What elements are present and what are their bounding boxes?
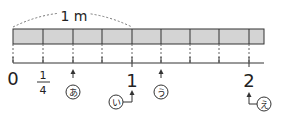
label-zero: 0 — [7, 68, 18, 89]
label-two: 2 — [243, 70, 254, 91]
marker-a: あ — [69, 88, 78, 98]
arrow-icon — [71, 69, 76, 74]
number-line-ticks — [13, 57, 249, 67]
arrow-icon — [159, 69, 164, 74]
marker-e: え — [260, 100, 269, 110]
number-line-diagram: 1 m 0 1 4 1 2 — [0, 0, 284, 122]
span-label: 1 m — [61, 8, 88, 24]
marker-u: う — [157, 88, 166, 98]
label-one: 1 — [126, 70, 137, 91]
marker-i: い — [112, 98, 121, 108]
guide-lines — [13, 44, 249, 63]
label-quarter-denominator: 4 — [40, 84, 47, 97]
tape-bar — [13, 29, 264, 44]
label-quarter-numerator: 1 — [40, 69, 47, 82]
